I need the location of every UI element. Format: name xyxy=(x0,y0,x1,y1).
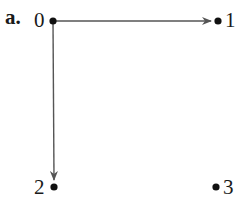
node-2 xyxy=(50,183,57,190)
node-3-label: 3 xyxy=(223,175,234,197)
node-1 xyxy=(214,17,221,24)
node-0 xyxy=(49,17,56,24)
node-0-label: 0 xyxy=(34,8,45,32)
node-2-label: 2 xyxy=(34,175,45,197)
edge-0-to-2 xyxy=(53,21,54,180)
node-3 xyxy=(212,183,219,190)
node-1-label: 1 xyxy=(225,8,236,32)
directed-graph-figure: a. 0 1 2 3 xyxy=(0,0,245,197)
